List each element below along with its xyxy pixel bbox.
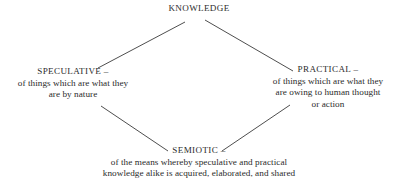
node-speculative-desc-line-1: of things which are what they — [0, 78, 146, 90]
node-practical-desc-line-1: of things which are what they — [258, 76, 398, 88]
node-practical-desc-line-3: or action — [258, 99, 398, 111]
node-semiotic-desc-line-2: knowledge alike is acquired, elaborated,… — [0, 168, 398, 180]
node-knowledge: KNOWLEDGE — [0, 3, 398, 15]
node-speculative-label: SPECULATIVE – — [0, 66, 146, 78]
node-practical: PRACTICAL – of things which are what the… — [258, 64, 398, 110]
node-practical-desc-line-2: are owing to human thought — [258, 87, 398, 99]
node-semiotic-desc-line-1: of the means whereby speculative and pra… — [0, 157, 398, 169]
node-speculative: SPECULATIVE – of things which are what t… — [0, 66, 146, 101]
node-semiotic-label: SEMIOTIC – — [0, 145, 398, 157]
node-practical-label: PRACTICAL – — [258, 64, 398, 76]
knowledge-diagram: KNOWLEDGE SPECULATIVE – of things which … — [0, 0, 398, 189]
edge-knowledge-to-speculative — [98, 22, 185, 68]
node-knowledge-label: KNOWLEDGE — [0, 3, 398, 15]
node-semiotic: SEMIOTIC – of the means whereby speculat… — [0, 145, 398, 180]
node-speculative-desc-line-2: are by nature — [0, 89, 146, 101]
